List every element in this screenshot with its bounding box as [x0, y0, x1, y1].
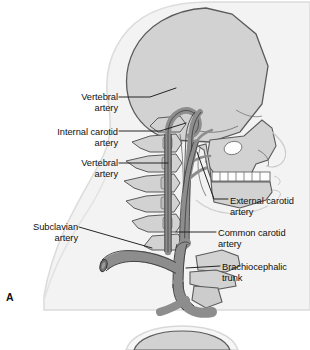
panel-letter-a: A	[6, 291, 14, 303]
label-internal-carotid-artery: Internal carotid artery	[18, 127, 118, 148]
label-vertebral-artery-upper: Vertebral artery	[42, 92, 118, 113]
panel-b-top	[126, 326, 238, 350]
label-brachiocephalic-trunk: Brachiocephalic trunk	[222, 262, 310, 283]
label-common-carotid-artery: Common carotid artery	[218, 228, 310, 249]
anatomy-figure-panel-a: Vertebral artery Internal carotid artery…	[0, 0, 310, 350]
label-subclavian-artery: Subclavian artery	[6, 222, 78, 243]
label-external-carotid-artery: External carotid artery	[230, 196, 310, 217]
label-vertebral-artery-lower: Vertebral artery	[42, 158, 118, 179]
